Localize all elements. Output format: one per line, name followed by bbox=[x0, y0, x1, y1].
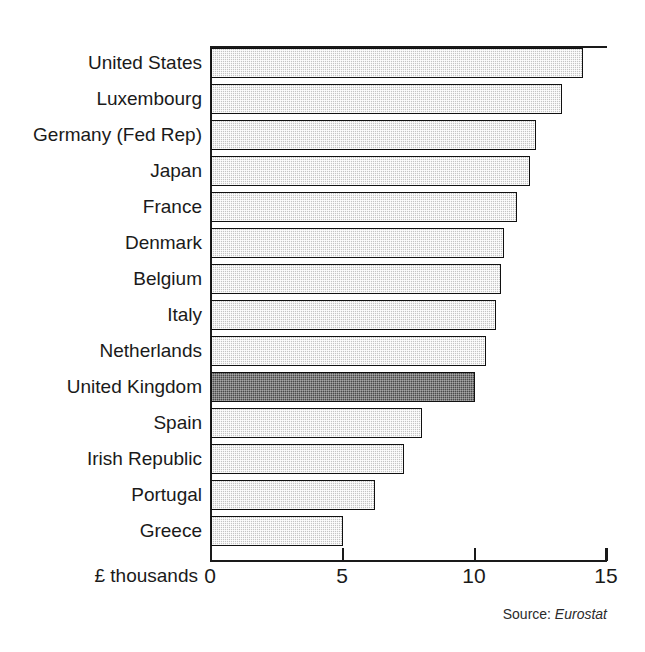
source-label: Source: bbox=[503, 606, 551, 622]
bar-portugal bbox=[211, 480, 375, 510]
category-label-italy: Italy bbox=[0, 304, 202, 326]
bar-fill bbox=[211, 192, 517, 222]
bar-luxembourg bbox=[211, 84, 562, 114]
bar-fill bbox=[211, 156, 530, 186]
category-label-denmark: Denmark bbox=[0, 232, 202, 254]
bar-chart-figure: United StatesLuxembourgGermany (Fed Rep)… bbox=[0, 0, 645, 652]
bar-germany-fed-rep bbox=[211, 120, 536, 150]
source-value: Eurostat bbox=[555, 606, 607, 622]
category-label-united-kingdom: United Kingdom bbox=[0, 376, 202, 398]
x-tick-label-5: 5 bbox=[322, 564, 362, 588]
bar-fill bbox=[211, 228, 504, 258]
bar-united-kingdom bbox=[211, 372, 475, 402]
bar-spain bbox=[211, 408, 422, 438]
category-label-luxembourg: Luxembourg bbox=[0, 88, 202, 110]
bar-fill bbox=[211, 516, 343, 546]
source-note: Source: Eurostat bbox=[503, 606, 607, 622]
bar-belgium bbox=[211, 264, 501, 294]
bar-france bbox=[211, 192, 517, 222]
category-label-portugal: Portugal bbox=[0, 484, 202, 506]
x-tick-label-15: 15 bbox=[586, 564, 626, 588]
bar-fill bbox=[211, 408, 422, 438]
bar-fill bbox=[211, 48, 583, 78]
category-label-irish-republic: Irish Republic bbox=[0, 448, 202, 470]
category-label-spain: Spain bbox=[0, 412, 202, 434]
bar-fill bbox=[211, 372, 475, 402]
category-label-japan: Japan bbox=[0, 160, 202, 182]
bar-fill bbox=[211, 84, 562, 114]
bar-united-states bbox=[211, 48, 583, 78]
category-label-greece: Greece bbox=[0, 520, 202, 542]
bar-italy bbox=[211, 300, 496, 330]
x-axis-title: £ thousands bbox=[40, 564, 198, 588]
x-tick-label-10: 10 bbox=[454, 564, 494, 588]
category-label-germany-fed-rep: Germany (Fed Rep) bbox=[0, 124, 202, 146]
x-tick-5 bbox=[342, 548, 344, 561]
category-label-netherlands: Netherlands bbox=[0, 340, 202, 362]
bar-japan bbox=[211, 156, 530, 186]
bar-denmark bbox=[211, 228, 504, 258]
bar-greece bbox=[211, 516, 343, 546]
bar-fill bbox=[211, 264, 501, 294]
bar-fill bbox=[211, 336, 486, 366]
x-tick-15 bbox=[606, 548, 608, 561]
category-label-belgium: Belgium bbox=[0, 268, 202, 290]
x-tick-0 bbox=[210, 548, 212, 561]
bar-fill bbox=[211, 300, 496, 330]
x-tick-10 bbox=[474, 548, 476, 561]
category-label-france: France bbox=[0, 196, 202, 218]
bar-fill bbox=[211, 120, 536, 150]
bar-fill bbox=[211, 480, 375, 510]
chart-title bbox=[0, 0, 645, 3]
bar-irish-republic bbox=[211, 444, 404, 474]
bar-fill bbox=[211, 444, 404, 474]
bar-netherlands bbox=[211, 336, 486, 366]
category-label-united-states: United States bbox=[0, 52, 202, 74]
